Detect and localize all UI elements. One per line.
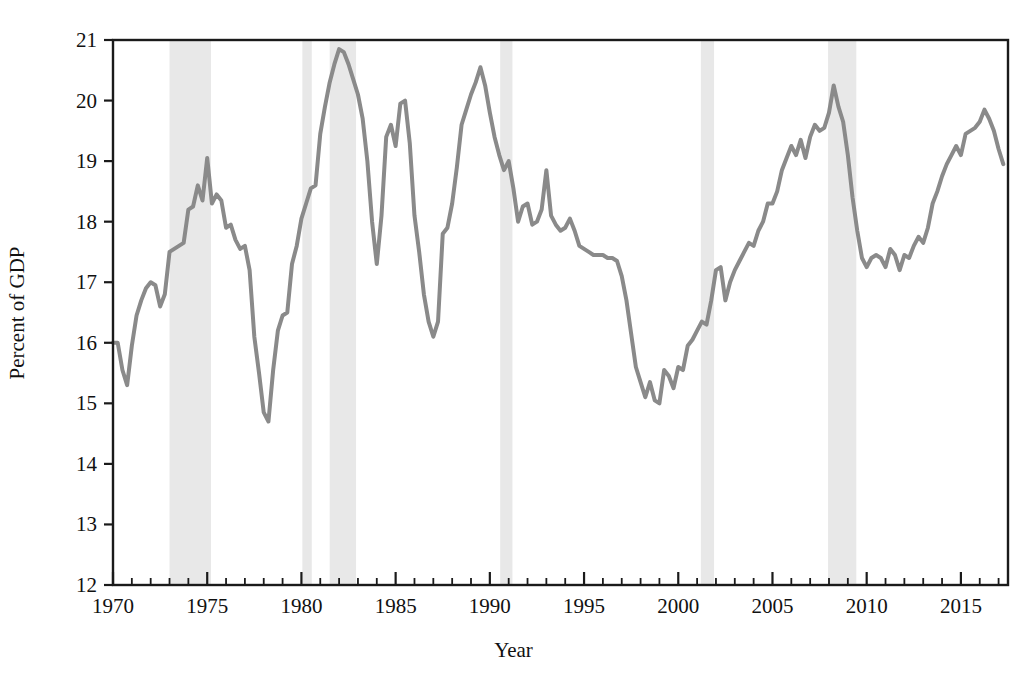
chart-figure: Percent of GDP Year 12131415161718192021… bbox=[0, 0, 1027, 687]
y-tick-label: 13 bbox=[76, 512, 97, 536]
y-tick-label: 16 bbox=[76, 331, 97, 355]
plot-area: 1213141516171819202119701975198019851990… bbox=[0, 0, 1027, 687]
x-tick-label: 2010 bbox=[846, 594, 888, 618]
recession-band bbox=[170, 40, 211, 585]
y-axis-ticks: 12131415161718192021 bbox=[76, 28, 113, 597]
recession-band bbox=[302, 40, 311, 585]
x-tick-label: 2000 bbox=[657, 594, 699, 618]
x-tick-label: 1990 bbox=[469, 594, 511, 618]
y-tick-label: 17 bbox=[76, 270, 97, 294]
x-tick-label: 1970 bbox=[92, 594, 134, 618]
x-tick-label: 1980 bbox=[280, 594, 322, 618]
recession-band bbox=[330, 40, 356, 585]
y-tick-label: 21 bbox=[76, 28, 97, 52]
x-tick-label: 2005 bbox=[751, 594, 793, 618]
y-tick-label: 14 bbox=[76, 452, 98, 476]
y-tick-label: 19 bbox=[76, 149, 97, 173]
y-tick-label: 18 bbox=[76, 210, 97, 234]
plot-frame bbox=[113, 40, 1008, 585]
x-tick-label: 1985 bbox=[375, 594, 417, 618]
x-tick-label: 2015 bbox=[940, 594, 982, 618]
data-line bbox=[113, 49, 1003, 421]
recession-bands bbox=[170, 40, 857, 585]
y-tick-label: 15 bbox=[76, 391, 97, 415]
recession-band bbox=[500, 40, 512, 585]
x-tick-label: 1995 bbox=[563, 594, 605, 618]
y-tick-label: 20 bbox=[76, 89, 97, 113]
x-tick-label: 1975 bbox=[186, 594, 228, 618]
